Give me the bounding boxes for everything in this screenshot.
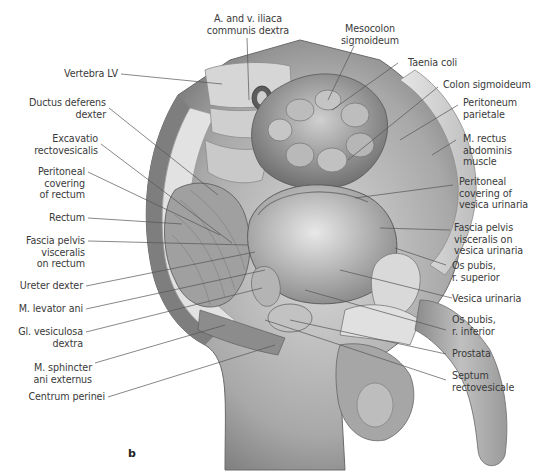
label-ductus-deferens-dexter: Ductus deferens dexter [20, 97, 106, 120]
label-taenia-coli: Taenia coli [408, 57, 457, 69]
label-m-levator-ani: M. levator ani [5, 303, 83, 315]
label-gl-vesiculosa-dextra: Gl. vesiculosa dextra [5, 326, 83, 349]
label-rectum: Rectum [10, 212, 85, 224]
label-os-pubis-r-inferior: Os pubis, r. inferior [452, 314, 496, 337]
label-excavatio-rectovesicalis: Excavatio rectovesicalis [20, 133, 98, 156]
label-vertebra-lv: Vertebra LV [35, 68, 118, 80]
label-peritoneal-covering-rectum: Peritoneal covering of rectum [10, 166, 85, 201]
label-m-sphincter-ani-externus: M. sphincter ani externus [10, 362, 92, 385]
label-peritoneal-covering-vesica: Peritoneal covering of vesica urinaria [459, 176, 528, 211]
anatomical-figure: Vertebra LV Ductus deferens dexter Excav… [0, 0, 536, 472]
label-m-rectus-abdominis: M. rectus abdominis muscle [463, 133, 512, 168]
label-peritoneum-parietale: Peritoneum parietale [463, 97, 517, 120]
panel-letter: b [128, 447, 136, 460]
label-septum-rectovesicale: Septum rectovesicale [452, 370, 514, 393]
label-fascia-pelvis-visceralis-vesica: Fascia pelvis visceralis on vesica urina… [454, 222, 523, 257]
label-centrum-perinei: Centrum perinei [10, 391, 105, 403]
label-a-v-iliaca-communis-dextra: A. and v. iliaca communis dextra [198, 13, 298, 36]
prostata-shape [268, 304, 312, 332]
label-mesocolon-sigmoideum: Mesocolon sigmoideum [330, 23, 410, 46]
label-vesica-urinaria: Vesica urinaria [452, 293, 521, 305]
label-ureter-dexter: Ureter dexter [5, 280, 83, 292]
label-fascia-pelvis-visceralis-rectum: Fascia pelvis visceralis on rectum [10, 235, 85, 270]
label-os-pubis-r-superior: Os pubis, r. superior [452, 260, 500, 283]
label-prostata: Prostata [452, 348, 491, 360]
label-colon-sigmoideum: Colon sigmoideum [443, 79, 531, 91]
